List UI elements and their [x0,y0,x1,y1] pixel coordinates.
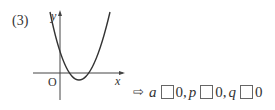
separator-a: , [183,84,187,101]
separator-p: , [223,84,227,101]
blank-box-p[interactable] [200,85,213,99]
parabola-curve [50,12,110,80]
y-axis-label: y [50,9,57,23]
variable-p: p [189,84,197,101]
x-axis-label: x [114,74,121,88]
variable-a: a [149,84,157,101]
zero-a: 0 [176,84,184,101]
variable-q: q [229,84,237,101]
implies-arrow-icon: ⇨ [133,84,144,100]
blank-box-a[interactable] [161,85,174,99]
zero-q: 0 [255,84,263,101]
answer-template: ⇨ a 0 , p 0 , q 0 [133,84,263,100]
zero-p: 0 [215,84,223,101]
y-axis-arrowhead-icon [58,10,62,16]
origin-label: O [48,75,57,89]
parabola-graph: y O x [0,0,140,110]
blank-box-q[interactable] [240,85,253,99]
